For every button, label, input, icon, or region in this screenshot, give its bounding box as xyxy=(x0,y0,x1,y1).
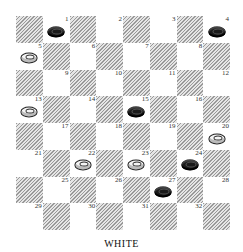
dark-square xyxy=(123,16,150,43)
square-number: 9 xyxy=(65,69,69,77)
square-5[interactable]: 5 xyxy=(16,43,43,70)
dark-square xyxy=(150,96,177,123)
white-checker-piece[interactable] xyxy=(128,160,145,171)
square-number: 20 xyxy=(222,122,229,130)
square-13[interactable]: 13 xyxy=(16,96,43,123)
square-number: 15 xyxy=(142,95,149,103)
square-number: 16 xyxy=(195,95,202,103)
black-checker-piece[interactable] xyxy=(155,187,172,198)
square-28[interactable]: 28 xyxy=(203,177,230,204)
dark-square xyxy=(123,177,150,204)
square-number: 25 xyxy=(62,176,69,184)
dark-square xyxy=(203,43,230,70)
square-26[interactable]: 26 xyxy=(96,177,123,204)
square-11[interactable]: 11 xyxy=(150,70,177,97)
square-8[interactable]: 8 xyxy=(177,43,204,70)
square-number: 4 xyxy=(226,15,230,23)
dark-square xyxy=(177,177,204,204)
square-6[interactable]: 6 xyxy=(70,43,97,70)
dark-square xyxy=(16,123,43,150)
dark-square xyxy=(150,43,177,70)
square-3[interactable]: 3 xyxy=(150,16,177,43)
square-24[interactable]: 24 xyxy=(177,150,204,177)
square-number: 30 xyxy=(88,202,95,210)
dark-square xyxy=(203,96,230,123)
dark-square xyxy=(123,70,150,97)
square-12[interactable]: 12 xyxy=(203,70,230,97)
square-number: 29 xyxy=(35,202,42,210)
square-31[interactable]: 31 xyxy=(123,203,150,230)
square-25[interactable]: 25 xyxy=(43,177,70,204)
white-checker-piece[interactable] xyxy=(21,53,38,64)
dark-square xyxy=(203,150,230,177)
dark-square xyxy=(16,177,43,204)
dark-square xyxy=(70,16,97,43)
square-number: 19 xyxy=(169,122,176,130)
square-19[interactable]: 19 xyxy=(150,123,177,150)
square-number: 13 xyxy=(35,95,42,103)
dark-square xyxy=(96,43,123,70)
white-checker-piece[interactable] xyxy=(208,133,225,144)
dark-square xyxy=(16,16,43,43)
square-number: 8 xyxy=(199,42,203,50)
square-number: 32 xyxy=(195,202,202,210)
dark-square xyxy=(177,16,204,43)
dark-square xyxy=(177,123,204,150)
square-number: 3 xyxy=(172,15,176,23)
square-14[interactable]: 14 xyxy=(70,96,97,123)
square-23[interactable]: 23 xyxy=(123,150,150,177)
dark-square xyxy=(96,203,123,230)
dark-square xyxy=(43,43,70,70)
dark-square xyxy=(177,70,204,97)
dark-square xyxy=(123,123,150,150)
square-17[interactable]: 17 xyxy=(43,123,70,150)
square-number: 18 xyxy=(115,122,122,130)
square-22[interactable]: 22 xyxy=(70,150,97,177)
dark-square xyxy=(43,150,70,177)
square-16[interactable]: 16 xyxy=(177,96,204,123)
square-4[interactable]: 4 xyxy=(203,16,230,43)
side-label: WHITE xyxy=(0,238,243,249)
square-number: 7 xyxy=(145,42,149,50)
dark-square xyxy=(150,150,177,177)
square-number: 22 xyxy=(88,149,95,157)
square-number: 24 xyxy=(195,149,202,157)
square-number: 5 xyxy=(38,42,42,50)
dark-square xyxy=(43,203,70,230)
square-21[interactable]: 21 xyxy=(16,150,43,177)
black-checker-piece[interactable] xyxy=(208,26,225,37)
square-number: 12 xyxy=(222,69,229,77)
white-checker-piece[interactable] xyxy=(74,160,91,171)
square-number: 21 xyxy=(35,149,42,157)
black-checker-piece[interactable] xyxy=(48,26,65,37)
dark-square xyxy=(43,96,70,123)
dark-square xyxy=(70,177,97,204)
square-2[interactable]: 2 xyxy=(96,16,123,43)
square-15[interactable]: 15 xyxy=(123,96,150,123)
dark-square xyxy=(16,70,43,97)
dark-square xyxy=(96,96,123,123)
white-checker-piece[interactable] xyxy=(21,106,38,117)
square-20[interactable]: 20 xyxy=(203,123,230,150)
square-18[interactable]: 18 xyxy=(96,123,123,150)
square-27[interactable]: 27 xyxy=(150,177,177,204)
square-10[interactable]: 10 xyxy=(96,70,123,97)
black-checker-piece[interactable] xyxy=(181,160,198,171)
dark-square xyxy=(70,70,97,97)
square-1[interactable]: 1 xyxy=(43,16,70,43)
square-number: 23 xyxy=(142,149,149,157)
dark-square xyxy=(96,150,123,177)
dark-square xyxy=(70,123,97,150)
square-number: 14 xyxy=(88,95,95,103)
square-32[interactable]: 32 xyxy=(177,203,204,230)
square-number: 17 xyxy=(62,122,69,130)
black-checker-piece[interactable] xyxy=(128,106,145,117)
square-number: 1 xyxy=(65,15,69,23)
dark-square xyxy=(203,203,230,230)
square-30[interactable]: 30 xyxy=(70,203,97,230)
square-number: 2 xyxy=(119,15,123,23)
square-9[interactable]: 9 xyxy=(43,70,70,97)
square-7[interactable]: 7 xyxy=(123,43,150,70)
square-29[interactable]: 29 xyxy=(16,203,43,230)
square-number: 26 xyxy=(115,176,122,184)
